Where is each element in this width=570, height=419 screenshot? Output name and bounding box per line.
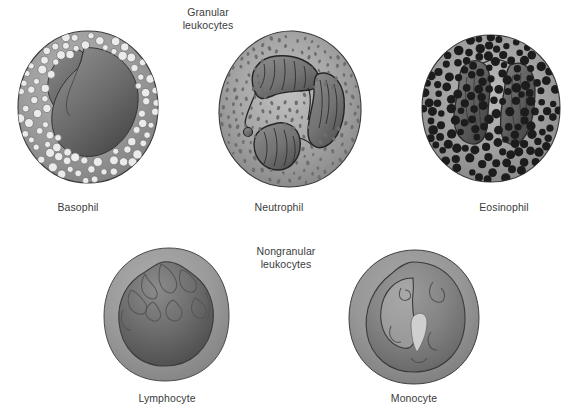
eosinophil-granule [512,83,522,93]
eosinophil-granule [503,43,509,49]
eosinophil-granule [542,76,551,85]
eosinophil-granule [501,62,507,68]
eosinophil-granule [527,130,536,139]
eosinophil-granule [508,165,516,173]
basophil-granule [110,168,117,175]
basophil-granule [88,166,95,173]
basophil-granule [127,53,136,62]
basophil-cell-body [16,31,160,184]
eosinophil-granule [555,106,563,114]
basophil-granule [58,170,66,178]
eosinophil-granule [478,93,486,101]
eosinophil-granule [487,33,495,41]
cell-illustration-monocyte [345,248,483,386]
basophil-granule [41,56,49,64]
eosinophil-granule [520,108,529,117]
basophil-granule [124,146,131,153]
cell-label-eosinophil: Eosinophil [454,201,554,213]
eosinophil-granule [469,62,477,70]
eosinophil-granule [479,101,488,110]
eosinophil-granule [465,49,473,57]
basophil-granule [63,157,71,165]
eosinophil-granule [492,109,501,118]
basophil-granule [139,119,147,127]
eosinophil-granule [435,91,442,98]
eosinophil-granule [434,68,442,76]
eosinophil-granule [437,121,445,129]
neutrophil-granule [254,135,256,138]
eosinophil-granule [458,108,465,115]
eosinophil-granule [528,51,537,60]
basophil-granule [151,108,158,115]
eosinophil-granule [443,61,450,68]
basophil-granule [62,42,69,49]
basophil-granule [22,105,29,112]
eosinophil-granule [480,123,488,131]
basophil-granule [55,135,62,142]
eosinophil-granule [469,169,475,175]
eosinophil-granule [490,97,497,104]
basophil-granule [96,37,104,45]
basophil-granule [33,144,39,150]
basophil-granule [73,45,79,51]
basophil-granule [111,48,117,54]
eosinophil-granule [533,79,541,87]
basophil-granule [31,96,38,103]
eosinophil-granule [484,153,492,161]
basophil-granule [53,143,62,152]
cell-label-neutrophil: Neutrophil [229,201,329,213]
eosinophil-granule [520,56,529,65]
cell-illustration-basophil [14,28,162,186]
cell-label-basophil: Basophil [28,201,128,213]
eosinophil-granule [499,51,507,59]
basophil-granule [71,34,78,41]
eosinophil-granule [467,92,475,100]
basophil-granule [41,84,49,92]
basophil-granule [33,78,39,84]
eosinophil-granule [428,118,435,125]
eosinophil-granule [526,146,535,155]
basophil-granule [42,122,48,128]
basophil-granule [133,150,142,159]
eosinophil-granule [468,71,475,78]
eosinophil-granule [485,41,493,49]
eosinophil-granule [461,66,468,73]
eosinophil-granule [520,140,528,148]
basophil-granule [83,177,89,183]
eosinophil-granule [505,123,513,131]
eosinophil-granule [447,104,456,113]
eosinophil-granule [494,85,503,94]
basophil-granule [28,86,35,93]
basophil-granule [47,70,55,78]
eosinophil-granule [475,53,483,61]
cell-illustration-eosinophil [419,33,563,185]
eosinophil-granule [511,139,520,148]
monocyte-cell-body [349,250,479,384]
basophil-granule [131,64,138,71]
eosinophil-granule [421,88,430,97]
eosinophil-granule [478,160,486,168]
heading-nongranular-leukocytes: Nongranular leukocytes [228,245,344,270]
eosinophil-granule [478,78,486,86]
eosinophil-granule [495,36,502,43]
cell-label-lymphocyte: Lymphocyte [117,392,217,404]
eosinophil-granule [514,65,521,72]
eosinophil-granule [470,105,478,113]
basophil-granule [138,74,144,80]
eosinophil-granule [462,145,469,152]
basophil-granule [148,122,154,128]
eosinophil-granule [455,74,462,81]
basophil-granule [36,128,43,135]
basophil-granule [133,126,140,133]
neutrophil-cell-body [219,31,361,187]
basophil-granule [146,75,155,84]
eosinophil-granule [538,99,545,106]
eosinophil-granule [475,173,483,181]
eosinophil-granule [543,107,551,115]
basophil-granule [128,138,136,146]
eosinophil-granule [441,156,450,165]
eosinophil-granule [493,46,500,53]
basophil-granule [25,119,34,128]
eosinophil-granule [470,145,479,154]
eosinophil-granule [498,69,506,77]
